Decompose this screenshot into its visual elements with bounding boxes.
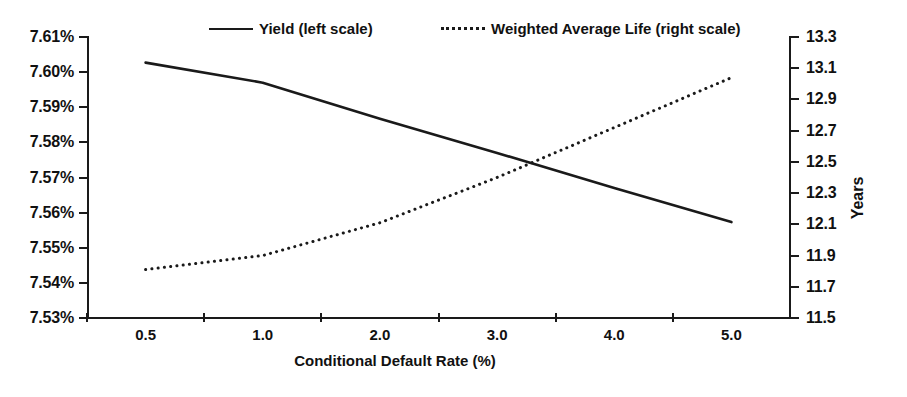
series-line-weighted-average-life: [146, 78, 732, 270]
series-line-yield: [146, 63, 732, 222]
plot-area: [0, 0, 907, 397]
chart-container: Yield (left scale) Weighted Average Life…: [0, 0, 907, 397]
y-axis-right-title: Years: [849, 177, 867, 220]
x-axis-title: Conditional Default Rate (%): [0, 352, 790, 369]
